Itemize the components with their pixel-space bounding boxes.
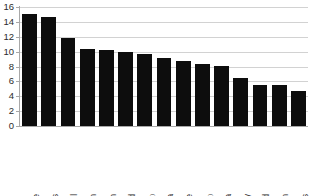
x-tick-label-name: Germany: [243, 194, 252, 196]
x-tick-label-name: Portugal: [70, 194, 79, 196]
x-tick-label: Spain: [110, 194, 118, 196]
x-tick-label-name: United States: [51, 194, 60, 196]
bar: [41, 17, 56, 126]
x-tick-label-year: (2004): [149, 194, 155, 196]
y-tick-label: 8: [0, 62, 14, 72]
bar: [195, 64, 210, 126]
x-tick-label: France: [186, 194, 194, 196]
x-tick-label-name: Australia: [224, 194, 233, 196]
bar: [99, 50, 114, 126]
bar: [291, 91, 306, 126]
x-tick-label: Portugal: [71, 194, 79, 196]
x-tick-label-name: United Kingdom: [281, 194, 290, 196]
y-tick-label: 14: [0, 17, 14, 27]
x-tick-label-name: Switzerland: [262, 194, 271, 196]
x-tick-label-name: Canada: [166, 194, 175, 196]
bar-chart: 0246810121416 GreeceUnited StatesPortuga…: [0, 0, 312, 196]
y-tick-label: 4: [0, 91, 14, 101]
bar: [61, 38, 76, 127]
x-tick-label: Australia: [225, 194, 233, 196]
y-tick-label: 10: [0, 47, 14, 57]
x-tick-label-name: New Zealand: [128, 194, 137, 196]
bar: [22, 14, 37, 126]
bar: [118, 52, 133, 126]
y-tick-label: 16: [0, 2, 14, 12]
bar: [233, 78, 248, 126]
x-tick-label: Italy (2004): [148, 194, 156, 196]
y-tick-mark: [16, 126, 20, 127]
y-tick-label: 12: [0, 32, 14, 42]
x-tick-label-name: Belgium: [89, 194, 98, 196]
x-tick-label-name: Greece: [32, 194, 41, 196]
x-tick-label: Belgium: [90, 194, 98, 196]
bar: [137, 54, 152, 126]
x-axis-tick-labels: GreeceUnited StatesPortugalBelgiumSpainN…: [20, 128, 308, 196]
bars-container: [20, 7, 308, 126]
x-tick-label-name: Spain: [109, 194, 118, 196]
bar: [253, 85, 268, 126]
bar: [157, 58, 172, 126]
x-tick-label: Greece: [33, 194, 41, 196]
bar: [80, 49, 95, 126]
x-tick-label-name: Netherlands: [301, 194, 310, 196]
y-tick-label: 2: [0, 106, 14, 116]
x-tick-label-year: (2003): [207, 194, 213, 196]
x-tick-label: Netherlands: [302, 194, 310, 196]
x-tick-label-name: France: [185, 194, 194, 196]
bar: [272, 85, 287, 126]
bar: [176, 61, 191, 126]
x-tick-label: Switzerland: [263, 194, 271, 196]
y-tick-label: 6: [0, 76, 14, 86]
y-tick-label: 0: [0, 121, 14, 131]
x-tick-label: United States: [52, 194, 60, 196]
x-tick-label: United Kingdom: [282, 194, 290, 196]
x-tick-label: New Zealand: [129, 194, 137, 196]
x-tick-label: Germany: [244, 194, 252, 196]
x-tick-label: Canada: [167, 194, 175, 196]
bar: [214, 66, 229, 126]
x-tick-label: Ireland (2003): [206, 194, 214, 196]
x-axis-line: [19, 126, 308, 127]
